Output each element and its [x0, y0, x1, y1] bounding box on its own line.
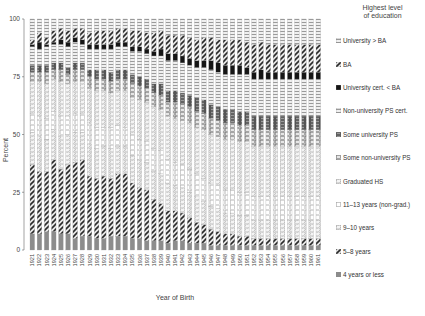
bar-segment — [51, 111, 56, 129]
bar-segment — [173, 185, 178, 210]
bar-segment — [295, 220, 300, 238]
y-axis-label: Percent — [2, 138, 9, 162]
bar-segment — [209, 229, 214, 245]
bar-segment — [130, 155, 135, 183]
legend-title-line1: Highest level — [340, 4, 425, 12]
bar-segment — [80, 160, 85, 236]
bar-segment — [123, 42, 128, 47]
x-tick-label: 1926 — [65, 254, 71, 266]
bar-segment — [73, 162, 78, 238]
bar-segment — [223, 40, 228, 65]
bar-segment — [51, 232, 56, 250]
bar-segment — [187, 123, 192, 169]
bar-segment — [302, 44, 307, 72]
bar-segment — [144, 190, 149, 241]
bar-segment — [287, 146, 292, 197]
bar-segment — [152, 84, 157, 93]
bar-segment — [309, 146, 314, 197]
bar-segment — [309, 44, 314, 72]
bar-1960 — [309, 19, 314, 250]
bar-segment — [173, 241, 178, 250]
bar-segment — [123, 47, 128, 70]
bar-segment — [109, 178, 114, 236]
bar-1952 — [252, 19, 257, 250]
bar-segment — [44, 139, 49, 171]
bar-1951 — [245, 19, 250, 250]
bar-segment — [187, 19, 192, 37]
bar-segment — [287, 238, 292, 245]
legend-label: Non-university PS cert. — [343, 107, 407, 114]
bar-segment — [137, 47, 142, 52]
legend-item: 9–10 years — [336, 216, 425, 239]
bar-segment — [194, 68, 199, 98]
bar-segment — [130, 84, 135, 98]
bar-1944 — [194, 19, 199, 250]
bar-segment — [159, 174, 164, 204]
bar-segment — [180, 63, 185, 93]
bar-segment — [287, 116, 292, 130]
bar-segment — [180, 241, 185, 250]
bar-segment — [59, 169, 64, 234]
bar-segment — [159, 151, 164, 174]
bar-segment — [194, 111, 199, 127]
bar-segment — [130, 238, 135, 250]
bar-segment — [216, 72, 221, 107]
legend-swatch-icon — [336, 225, 341, 230]
bar-segment — [309, 197, 314, 220]
x-axis-label: Year of Birth — [156, 294, 194, 301]
bar-segment — [259, 238, 264, 245]
bar-segment — [94, 44, 99, 49]
bar-segment — [137, 19, 142, 31]
bar-segment — [237, 40, 242, 65]
bar-segment — [273, 130, 278, 146]
bar-segment — [266, 197, 271, 220]
bar-segment — [194, 40, 199, 61]
bar-segment — [230, 40, 235, 65]
bar-segment — [223, 74, 228, 109]
bar-1941 — [173, 19, 178, 250]
bar-segment — [302, 146, 307, 197]
bar-segment — [194, 222, 199, 243]
legend-label: Graduated HS — [343, 178, 383, 185]
bar-segment — [173, 91, 178, 103]
bar-1959 — [302, 19, 307, 250]
bar-segment — [245, 42, 250, 67]
bar-segment — [216, 63, 221, 72]
bar-segment — [80, 19, 85, 28]
bar-segment — [287, 72, 292, 79]
bar-segment — [280, 72, 285, 79]
bar-segment — [295, 19, 300, 44]
x-tick-label: 1927 — [72, 254, 78, 266]
bar-segment — [316, 79, 321, 116]
bar-segment — [130, 183, 135, 238]
bar-1946 — [209, 19, 214, 250]
bar-segment — [216, 137, 221, 186]
bar-segment — [309, 220, 314, 238]
bar-segment — [166, 102, 171, 116]
bar-1932 — [109, 19, 114, 250]
bar-1922 — [37, 19, 42, 250]
x-tick-label: 1954 — [265, 254, 271, 266]
bar-segment — [51, 63, 56, 70]
bar-segment — [216, 185, 221, 208]
bar-segment — [37, 72, 42, 81]
bar-1938 — [152, 19, 157, 250]
bar-segment — [280, 79, 285, 116]
bar-segment — [259, 79, 264, 116]
bar-segment — [316, 72, 321, 79]
bar-segment — [252, 197, 257, 220]
bar-segment — [216, 208, 221, 231]
x-tick-label: 1960 — [308, 254, 314, 266]
bar-segment — [59, 40, 64, 45]
x-tick-label: 1931 — [101, 254, 107, 266]
bar-segment — [123, 174, 128, 236]
legend-item: 5–8 years — [336, 240, 425, 263]
bar-segment — [202, 100, 207, 114]
bar-segment — [144, 79, 149, 88]
legend-label: Some university PS — [343, 131, 398, 138]
bar-segment — [302, 220, 307, 238]
legend-item: Graduated HS — [336, 169, 425, 192]
bar-segment — [166, 61, 171, 91]
bar-segment — [202, 19, 207, 37]
bar-segment — [73, 70, 78, 82]
